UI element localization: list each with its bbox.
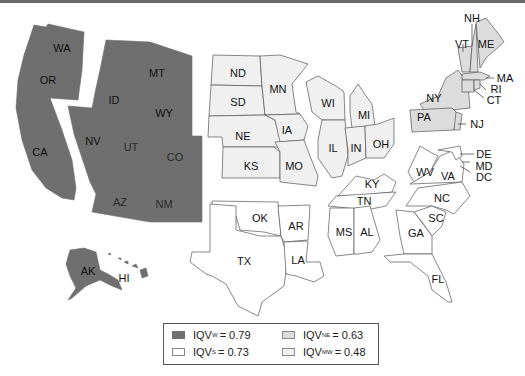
state-ct <box>462 80 474 92</box>
label-id: ID <box>109 94 120 106</box>
label-ca: CA <box>32 146 48 158</box>
label-mo: MO <box>285 160 303 172</box>
label-oh: OH <box>373 138 390 150</box>
state-mountain-block <box>68 40 202 222</box>
label-ks: KS <box>244 160 259 172</box>
label-ms: MS <box>336 226 353 238</box>
label-ar: AR <box>288 220 303 232</box>
label-wy: WY <box>155 107 173 119</box>
label-ct: CT <box>487 94 502 106</box>
label-nv: NV <box>85 135 101 147</box>
label-ia: IA <box>282 124 293 136</box>
label-az: AZ <box>113 196 127 208</box>
label-mn: MN <box>269 83 286 95</box>
label-la: LA <box>291 254 305 266</box>
label-nd: ND <box>230 67 246 79</box>
region-west-offshore <box>66 248 148 300</box>
label-nj: NJ <box>470 118 483 130</box>
label-ky: KY <box>365 178 380 190</box>
label-fl: FL <box>432 273 445 285</box>
label-va: VA <box>441 170 456 182</box>
legend-item-midwest: IQVMW= 0.48 <box>282 346 366 358</box>
legend-prefix: IQV <box>193 346 212 358</box>
region-west-mountain <box>68 40 202 222</box>
label-ut: UT <box>124 141 139 153</box>
label-me: ME <box>478 38 495 50</box>
label-mt: MT <box>149 67 165 79</box>
legend-subscript: NE <box>322 332 330 338</box>
legend-prefix: IQV <box>193 329 212 341</box>
legend: IQVW= 0.79 IQVNE= 0.63 IQVS= 0.73 IQVMW=… <box>163 323 379 365</box>
label-il: IL <box>328 142 337 154</box>
label-vt: VT <box>455 38 469 50</box>
state-mi <box>350 84 375 128</box>
label-sd: SD <box>230 96 245 108</box>
state-ri <box>474 80 480 90</box>
legend-swatch-northeast <box>282 331 295 339</box>
label-tx: TX <box>237 255 252 267</box>
label-wv: WV <box>416 166 434 178</box>
legend-item-south: IQVS= 0.73 <box>172 346 249 358</box>
label-co: CO <box>167 151 184 163</box>
legend-value: = 0.48 <box>335 346 366 358</box>
label-al: AL <box>360 226 373 238</box>
label-in: IN <box>351 142 362 154</box>
label-nc: NC <box>434 192 450 204</box>
label-ne: NE <box>235 130 250 142</box>
legend-value: = 0.73 <box>218 346 249 358</box>
label-sc: SC <box>428 212 443 224</box>
label-nh: NH <box>464 12 480 24</box>
legend-value: = 0.79 <box>220 329 251 341</box>
label-wi: WI <box>321 97 334 109</box>
legend-subscript: MW <box>322 349 333 355</box>
legend-swatch-west <box>172 331 185 339</box>
label-dc: DC <box>476 171 492 183</box>
legend-prefix: IQV <box>303 346 322 358</box>
label-mi: MI <box>358 109 370 121</box>
legend-swatch-south <box>172 348 185 356</box>
label-or: OR <box>40 74 57 86</box>
label-ok: OK <box>252 212 269 224</box>
label-ga: GA <box>408 227 425 239</box>
legend-subscript: S <box>212 349 216 355</box>
legend-item-west: IQVW= 0.79 <box>172 329 251 341</box>
legend-item-northeast: IQVNE= 0.63 <box>282 329 363 341</box>
label-pa: PA <box>417 111 432 123</box>
label-wa: WA <box>53 42 71 54</box>
legend-prefix: IQV <box>303 329 322 341</box>
legend-value: = 0.63 <box>332 329 363 341</box>
legend-subscript: W <box>212 332 218 338</box>
label-nm: NM <box>155 198 172 210</box>
state-ma <box>462 72 490 80</box>
legend-swatch-midwest <box>282 348 295 356</box>
label-ak: AK <box>81 265 96 277</box>
label-ny: NY <box>426 92 442 104</box>
label-hi: HI <box>119 272 130 284</box>
label-de: DE <box>476 148 491 160</box>
us-region-map: WA OR CA ID MT WY NV UT CO AZ NM AK HI N… <box>0 0 525 376</box>
label-tn: TN <box>357 195 372 207</box>
